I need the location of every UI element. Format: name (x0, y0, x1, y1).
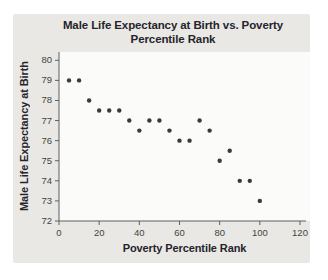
x-tick-label: 100 (252, 227, 268, 238)
x-tick-label: 0 (56, 227, 61, 238)
y-tick-label: 73 (41, 195, 52, 206)
x-tick-label: 20 (94, 227, 105, 238)
y-tick-label: 74 (41, 175, 52, 186)
x-axis-title: Poverty Percentile Rank (59, 242, 310, 254)
chart-card: Male Life Expectancy at Birth vs. Povert… (13, 14, 310, 263)
data-point (207, 128, 211, 132)
x-tick-label: 60 (174, 227, 185, 238)
y-tick-label: 78 (41, 94, 52, 105)
y-tick-label: 79 (41, 74, 52, 85)
y-axis-title: Male Life Expectancy at Birth (16, 52, 31, 221)
y-tick-label: 77 (41, 115, 52, 126)
screenshot-stage: Male Life Expectancy at Birth vs. Povert… (0, 0, 328, 280)
data-point (67, 78, 71, 82)
data-point (87, 98, 91, 102)
data-point (77, 78, 81, 82)
data-point (197, 118, 201, 122)
data-point (147, 118, 151, 122)
scatter-plot: 727374757677787980020406080100120 (13, 14, 310, 263)
data-point (217, 159, 221, 163)
data-point (117, 108, 121, 112)
data-point (137, 128, 141, 132)
plot-area (59, 52, 310, 221)
data-point (238, 179, 242, 183)
data-point (127, 118, 131, 122)
y-tick-label: 80 (41, 54, 52, 65)
data-point (177, 138, 181, 142)
data-point (107, 108, 111, 112)
y-tick-label: 75 (41, 155, 52, 166)
data-point (97, 108, 101, 112)
data-point (228, 148, 232, 152)
data-point (167, 128, 171, 132)
data-point (157, 118, 161, 122)
data-point (187, 138, 191, 142)
data-point (258, 199, 262, 203)
y-tick-label: 72 (41, 215, 52, 226)
x-tick-label: 40 (134, 227, 145, 238)
x-tick-label: 80 (214, 227, 225, 238)
x-tick-label: 120 (292, 227, 308, 238)
y-tick-label: 76 (41, 135, 52, 146)
data-point (248, 179, 252, 183)
